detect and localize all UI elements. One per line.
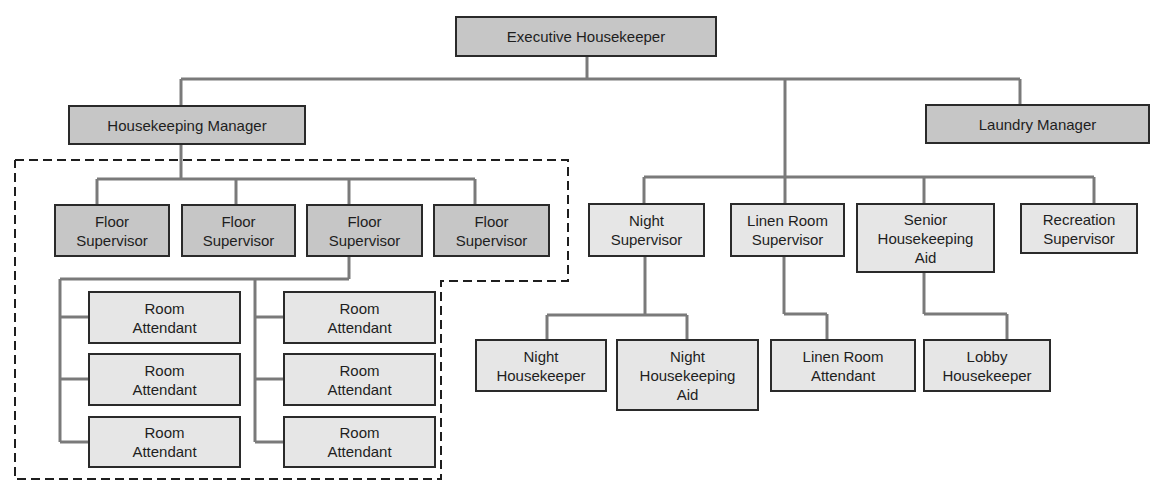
node-room-attendant-2: Room Attendant — [88, 353, 241, 406]
node-lobby-housekeeper: Lobby Housekeeper — [923, 339, 1051, 392]
node-night-housekeeping-aid: Night Housekeeping Aid — [616, 339, 759, 411]
node-executive-housekeeper: Executive Housekeeper — [455, 16, 717, 57]
node-night-housekeeper: Night Housekeeper — [475, 339, 607, 392]
org-chart: Executive Housekeeper Housekeeping Manag… — [0, 0, 1157, 492]
node-linen-room-supervisor: Linen Room Supervisor — [730, 203, 845, 257]
node-room-attendant-5: Room Attendant — [283, 353, 436, 406]
node-floor-supervisor-1: Floor Supervisor — [54, 204, 170, 257]
node-laundry-manager: Laundry Manager — [925, 104, 1150, 144]
node-recreation-supervisor: Recreation Supervisor — [1020, 203, 1138, 254]
node-linen-room-attendant: Linen Room Attendant — [770, 339, 916, 392]
node-senior-housekeeping-aid: Senior Housekeeping Aid — [856, 203, 995, 273]
node-housekeeping-manager: Housekeeping Manager — [68, 105, 306, 145]
node-room-attendant-4: Room Attendant — [283, 291, 436, 344]
node-room-attendant-3: Room Attendant — [88, 416, 241, 468]
node-room-attendant-1: Room Attendant — [88, 291, 241, 344]
node-floor-supervisor-4: Floor Supervisor — [433, 204, 550, 257]
node-night-supervisor: Night Supervisor — [588, 203, 705, 257]
node-room-attendant-6: Room Attendant — [283, 416, 436, 468]
node-floor-supervisor-3: Floor Supervisor — [306, 204, 423, 257]
node-floor-supervisor-2: Floor Supervisor — [181, 204, 296, 257]
